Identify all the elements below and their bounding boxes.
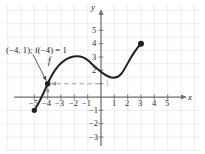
x-tick-label-2: 2 bbox=[125, 99, 129, 108]
x-tick-label-1: 1 bbox=[112, 99, 116, 108]
y-tick-label-neg2: −2 bbox=[89, 119, 98, 128]
x-tick-label-neg2: −2 bbox=[69, 99, 78, 108]
y-tick-label-2: 2 bbox=[92, 66, 96, 75]
y-axis-label: y bbox=[91, 3, 95, 12]
x-tick-label-neg1: −1 bbox=[82, 99, 91, 108]
x-tick-label-neg5: −5 bbox=[29, 99, 38, 108]
right-endpoint-dot bbox=[138, 41, 144, 47]
y-tick-label-neg3: −3 bbox=[89, 133, 98, 142]
function-name-label: f bbox=[48, 57, 51, 67]
y-tick-label-5: 5 bbox=[92, 26, 96, 35]
x-tick-label-4: 4 bbox=[152, 99, 156, 108]
x-tick-label-neg4: −4 bbox=[42, 99, 51, 108]
coordinate-plane bbox=[0, 0, 205, 154]
y-tick-label-4: 4 bbox=[92, 39, 96, 48]
graph-screenshot: (−4, 1); f(−4) = 1 f x y 5 4 3 2 1 −1 −2… bbox=[0, 0, 205, 154]
x-axis-label: x bbox=[188, 93, 192, 102]
x-tick-label-neg3: −3 bbox=[55, 99, 64, 108]
point-annotation-label: (−4, 1); f(−4) = 1 bbox=[6, 46, 67, 55]
marked-point-dot bbox=[45, 81, 51, 87]
y-tick-label-3: 3 bbox=[92, 53, 96, 62]
y-tick-label-1: 1 bbox=[105, 80, 109, 88]
x-tick-label-5: 5 bbox=[165, 99, 169, 108]
x-tick-label-3: 3 bbox=[138, 99, 142, 108]
left-endpoint-dot bbox=[32, 108, 37, 113]
